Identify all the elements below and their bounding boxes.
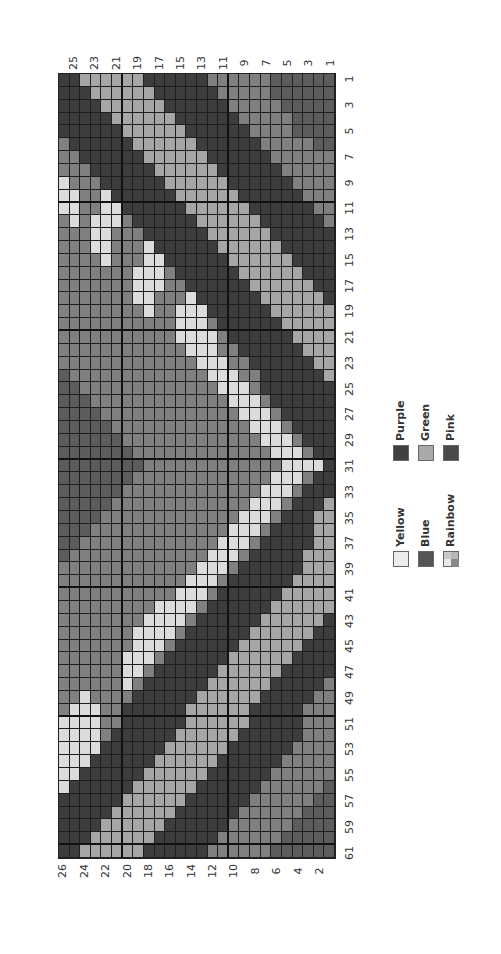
chart-cell — [123, 447, 134, 460]
stitch-label: 53 — [344, 739, 356, 759]
chart-cell — [186, 395, 197, 408]
chart-cell — [293, 601, 304, 614]
chart-cell — [101, 254, 112, 267]
chart-cell — [144, 511, 155, 524]
chart-cell — [155, 627, 166, 640]
chart-cell — [59, 562, 70, 575]
chart-cell — [91, 575, 102, 588]
chart-cell — [303, 447, 314, 460]
chart-cell — [70, 845, 81, 858]
chart-cell — [186, 100, 197, 113]
chart-cell — [314, 794, 325, 807]
chart-cell — [261, 254, 272, 267]
chart-cell — [91, 421, 102, 434]
chart-cell — [324, 781, 335, 794]
stitch-label: 1 — [344, 69, 356, 89]
chart-cell — [303, 524, 314, 537]
chart-cell — [59, 267, 70, 280]
chart-cell — [229, 460, 240, 473]
chart-cell — [80, 472, 91, 485]
chart-cell — [324, 370, 335, 383]
chart-cell — [91, 305, 102, 318]
chart-cell — [59, 614, 70, 627]
chart-cell — [271, 472, 282, 485]
chart-cell — [165, 691, 176, 704]
chart-cell — [218, 498, 229, 511]
chart-cell — [218, 190, 229, 203]
chart-cell — [70, 678, 81, 691]
chart-cell — [293, 845, 304, 858]
chart-cell — [271, 742, 282, 755]
chart-cell — [250, 164, 261, 177]
chart-cell — [186, 742, 197, 755]
row-label: 11 — [218, 53, 230, 73]
chart-cell — [59, 87, 70, 100]
chart-cell — [112, 550, 123, 563]
chart-cell — [271, 665, 282, 678]
chart-cell — [70, 704, 81, 717]
chart-cell — [271, 292, 282, 305]
chart-cell — [282, 640, 293, 653]
chart-cell — [218, 678, 229, 691]
chart-cell — [208, 524, 219, 537]
chart-cell — [133, 87, 144, 100]
chart-cell — [229, 267, 240, 280]
chart-cell — [218, 511, 229, 524]
chart-cell — [123, 460, 134, 473]
chart-cell — [80, 665, 91, 678]
row-label: 1 — [325, 53, 337, 73]
chart-cell — [91, 408, 102, 421]
chart-cell — [229, 395, 240, 408]
chart-cell — [314, 74, 325, 87]
chart-cell — [239, 382, 250, 395]
chart-cell — [70, 472, 81, 485]
chart-cell — [186, 807, 197, 820]
chart-cell — [176, 292, 187, 305]
chart-cell — [155, 652, 166, 665]
chart-cell — [165, 575, 176, 588]
chart-cell — [101, 832, 112, 845]
chart-cell — [80, 177, 91, 190]
chart-cell — [197, 691, 208, 704]
chart-cell — [197, 100, 208, 113]
chart-cell — [293, 151, 304, 164]
chart-cell — [101, 100, 112, 113]
chart-cell — [165, 370, 176, 383]
chart-cell — [314, 421, 325, 434]
chart-cell — [176, 781, 187, 794]
chart-cell — [155, 678, 166, 691]
chart-cell — [303, 819, 314, 832]
chart-cell — [101, 241, 112, 254]
chart-cell — [176, 164, 187, 177]
chart-cell — [250, 280, 261, 293]
chart-cell — [208, 614, 219, 627]
chart-cell — [123, 370, 134, 383]
chart-cell — [250, 357, 261, 370]
chart-cell — [91, 434, 102, 447]
chart-cell — [144, 138, 155, 151]
chart-cell — [112, 280, 123, 293]
stitch-label: 51 — [344, 714, 356, 734]
chart-cell — [261, 524, 272, 537]
chart-cell — [218, 794, 229, 807]
chart-cell — [271, 460, 282, 473]
chart-cell — [165, 614, 176, 627]
chart-cell — [70, 164, 81, 177]
chart-cell — [59, 292, 70, 305]
chart-cell — [133, 280, 144, 293]
chart-cell — [324, 652, 335, 665]
chart-cell — [271, 357, 282, 370]
chart-cell — [324, 344, 335, 357]
chart-cell — [218, 781, 229, 794]
chart-cell — [324, 729, 335, 742]
chart-cell — [261, 138, 272, 151]
chart-cell — [261, 190, 272, 203]
chart-cell — [293, 691, 304, 704]
chart-cell — [133, 318, 144, 331]
chart-cell — [250, 807, 261, 820]
row-label: 6 — [271, 861, 283, 881]
chart-cell — [70, 280, 81, 293]
chart-cell — [314, 819, 325, 832]
chart-cell — [186, 164, 197, 177]
chart-cell — [282, 241, 293, 254]
